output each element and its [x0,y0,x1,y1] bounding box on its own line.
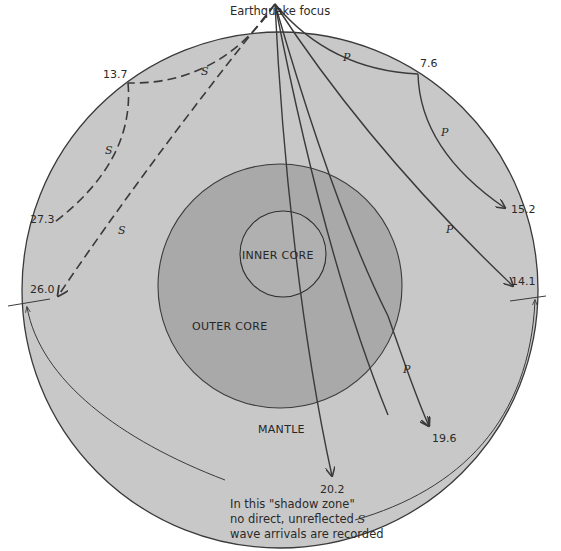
caption-line-2: no direct, unreflected S [230,512,384,527]
wave-label-p-right: P [441,127,448,138]
arrival-19-6: 19.6 [432,433,457,444]
caption-s-italic: S [357,512,365,526]
outer-core-label: OUTER CORE [192,321,267,332]
arrival-7-6: 7.6 [420,58,438,69]
mantle-label: MANTLE [258,424,305,435]
shadow-zone-caption: In this "shadow zone" no direct, unrefle… [230,497,384,542]
wave-label-p-top: P [343,52,350,63]
earthquake-focus-label: Earthquake focus [230,6,330,18]
inner-core-label: INNER CORE [242,250,314,261]
arrival-27-3: 27.3 [30,214,55,225]
caption-line-2-text: no direct, unreflected [230,512,357,526]
earth-interior-diagram: Earthquake focus INNER CORE OUTER CORE M… [0,0,561,551]
caption-line-3: wave arrivals are recorded [230,527,384,542]
wave-label-s-lower: S [118,225,126,236]
arrival-26-0: 26.0 [30,284,55,295]
arrival-14-1: 14.1 [511,276,536,287]
wave-label-s-left: S [105,145,113,156]
wave-label-p-mid: P [446,224,453,235]
diagram-canvas [0,0,561,551]
wave-label-p-lower: P [403,364,410,375]
arrival-20-2: 20.2 [320,484,345,495]
caption-line-1: In this "shadow zone" [230,497,384,512]
arrival-13-7: 13.7 [103,69,128,80]
wave-label-s-top: S [201,66,209,77]
arrival-15-2: 15.2 [511,204,536,215]
